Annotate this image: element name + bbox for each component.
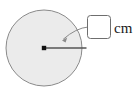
diagram-canvas: cm	[0, 0, 139, 93]
unit-label: cm	[114, 20, 133, 36]
center-dot	[42, 46, 46, 50]
circle-radius-figure: cm	[0, 0, 139, 93]
radius-input-box[interactable]	[88, 16, 111, 39]
